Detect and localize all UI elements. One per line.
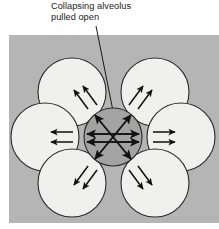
alveoli-schematic	[0, 0, 219, 229]
alveolar-interdependence-figure: Collapsing alveolus pulled open	[0, 0, 219, 229]
